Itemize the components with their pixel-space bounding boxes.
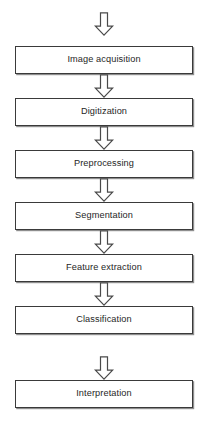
flow-arrow [91,230,117,254]
flow-arrow [91,282,117,306]
flow-arrow [91,178,117,202]
figure-caption-fragment [6,414,156,423]
flow-stage-box: Preprocessing [15,150,193,178]
flow-stage-label: Classification [76,315,132,324]
flow-arrow [91,356,117,380]
flow-stage-label: Segmentation [75,211,133,220]
flow-stage-box: Segmentation [15,202,193,230]
flow-stage-label: Interpretation [76,389,132,398]
flow-arrow [91,12,117,36]
flow-stage-label: Digitization [81,107,127,116]
flow-stage-box: Classification [15,306,193,334]
flow-stage-box: Image acquisition [15,46,193,74]
flow-stage-box: Feature extraction [15,254,193,282]
flowchart-diagram: Image acquisitionDigitizationPreprocessi… [0,0,208,426]
flow-stage-label: Feature extraction [66,263,142,272]
flow-stage-box: Interpretation [15,380,193,408]
flow-stage-box: Digitization [15,98,193,126]
flow-stage-label: Image acquisition [67,55,140,64]
flow-stage-label: Preprocessing [74,159,134,168]
flow-arrow [91,126,117,150]
flow-arrow [91,74,117,98]
